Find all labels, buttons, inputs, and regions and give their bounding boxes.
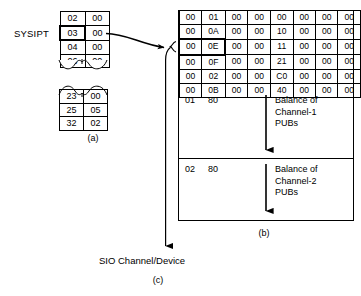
sysipt-cell-left-highlighted: 03 [60, 26, 85, 41]
hex-cell: 00 [293, 11, 315, 25]
balance-1-code-2: 80 [208, 95, 218, 105]
hex-cell: 02 [202, 69, 225, 83]
hex-cell: 00 [225, 55, 248, 70]
caption-c: (c) [138, 275, 178, 285]
hex-cell: 11 [270, 39, 293, 54]
second-cell-left: 32 [60, 117, 84, 131]
table-row: 00 0F 00 00 21 00 00 00 [179, 55, 361, 70]
caption-a: (a) [73, 133, 113, 143]
balance-1-line-3: PUBs [275, 118, 318, 130]
hex-cell: 00 [179, 25, 202, 40]
hex-cell: 00 [225, 69, 248, 83]
balance-2-code-1: 02 [185, 164, 195, 174]
second-cell-right: 02 [84, 117, 108, 131]
hex-cell: 00 [315, 55, 337, 70]
balance-2-text: Balance of Channel-2 PUBs [275, 164, 318, 199]
sysipt-label: SYSIPT [14, 28, 49, 39]
hex-cell: 00 [225, 39, 248, 54]
sio-channel-device-label: SIO Channel/Device [99, 255, 185, 266]
hex-cell: 00 [338, 55, 361, 70]
hex-cell: 00 [293, 39, 315, 54]
hex-cell: 00 [248, 69, 270, 83]
arrow-sysipt-to-pub [106, 34, 164, 48]
brace-icon [170, 42, 176, 53]
sysipt-cell-right: 00 [85, 12, 110, 26]
hex-cell: 00 [315, 25, 337, 40]
table-row: 23 00 [60, 90, 108, 104]
table-row: 00 01 00 00 00 00 00 00 [179, 11, 361, 25]
balance-1-line-1: Balance of [275, 95, 318, 107]
hex-cell: 01 [202, 11, 225, 25]
second-cell-right: 00 [84, 90, 108, 104]
hex-cell: 00 [338, 11, 361, 25]
second-table: 23 00 25 05 32 02 [59, 89, 108, 131]
hex-cell: 00 [315, 11, 337, 25]
balance-section-channel-1: 0180 Balance of Channel-1 PUBs [179, 90, 353, 159]
table-row-highlighted: 00 0E 00 00 11 00 00 00 [179, 39, 361, 54]
table-row: 25 05 [60, 103, 108, 117]
hex-cell: 00 [338, 69, 361, 83]
hex-cell: 00 [248, 39, 270, 54]
hex-cell: 00 [179, 69, 202, 83]
hex-cell: 0F [202, 55, 225, 70]
balance-2-code: 0280 [185, 164, 218, 174]
hex-cell: 00 [225, 11, 248, 25]
balance-2-line-3: PUBs [275, 187, 318, 199]
table-row: 02 00 [60, 12, 110, 26]
table-row: 04 00 [60, 40, 110, 54]
balance-1-code: 0180 [185, 95, 218, 105]
arrow-pub-to-sio [166, 47, 171, 246]
torn-edge-bottom-icon [57, 59, 111, 75]
table-row: 32 02 [60, 117, 108, 131]
hex-cell: 00 [338, 39, 361, 54]
balance-1-line-2: Channel-1 [275, 107, 318, 119]
sysipt-cell-left: 02 [60, 12, 85, 26]
balance-2-code-2: 80 [208, 164, 218, 174]
balance-2-line-2: Channel-2 [275, 176, 318, 188]
second-table-body: 23 00 25 05 32 02 [60, 90, 108, 131]
sysipt-cell-right: 00 [85, 26, 110, 41]
pub-hex-grid-body: 00 01 00 00 00 00 00 00 00 0A 00 00 10 0… [179, 11, 361, 98]
hex-cell: 00 [179, 11, 202, 25]
second-cell-right: 05 [84, 103, 108, 117]
second-cell-left: 23 [60, 90, 84, 104]
balance-1-code-1: 01 [185, 95, 195, 105]
hex-cell: 10 [270, 25, 293, 40]
table-row: 00 02 00 00 C0 00 00 00 [179, 69, 361, 83]
balance-2-line-1: Balance of [275, 164, 318, 176]
hex-cell-highlighted: 0E [202, 39, 225, 54]
table-row: 00 0A 00 00 10 00 00 00 [179, 25, 361, 40]
hex-cell: 00 [248, 55, 270, 70]
sysipt-cell-right: 00 [85, 40, 110, 54]
second-cell-left: 25 [60, 103, 84, 117]
hex-cell: 00 [293, 25, 315, 40]
balance-section-channel-2: 0280 Balance of Channel-2 PUBs [179, 159, 353, 220]
sysipt-cell-left: 04 [60, 40, 85, 54]
hex-cell: 00 [338, 25, 361, 40]
hex-cell: 00 [248, 25, 270, 40]
hex-cell: 00 [179, 55, 202, 70]
hex-cell: 00 [248, 11, 270, 25]
hex-cell: C0 [270, 69, 293, 83]
hex-cell-highlighted: 00 [179, 39, 202, 54]
pub-hex-grid: 00 01 00 00 00 00 00 00 00 0A 00 00 10 0… [178, 10, 361, 98]
balance-1-text: Balance of Channel-1 PUBs [275, 95, 318, 130]
hex-cell: 00 [293, 69, 315, 83]
hex-cell: 0A [202, 25, 225, 40]
hex-cell: 00 [315, 39, 337, 54]
table-row: 03 00 [60, 26, 110, 41]
hex-cell: 00 [315, 69, 337, 83]
hex-cell: 21 [270, 55, 293, 70]
hex-cell: 00 [293, 55, 315, 70]
hex-cell: 00 [225, 25, 248, 40]
caption-b: (b) [244, 228, 284, 238]
diagram-canvas: SYSIPT 02 00 03 00 04 00 06 00 [0, 0, 361, 296]
hex-cell: 00 [270, 11, 293, 25]
